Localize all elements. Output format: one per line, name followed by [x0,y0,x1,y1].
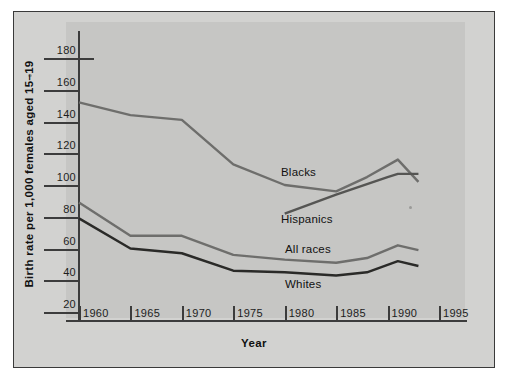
y-axis-tick-rule [44,185,78,187]
chart-figure: 20406080100120140160180 1960196519701975… [0,0,508,380]
y-axis-tick-label: 20 [44,299,78,310]
x-axis-tick-1985 [336,306,338,321]
y-axis-tick-180: 180 [44,45,78,60]
series-label-all-races: All races [285,243,331,255]
x-axis-tick-label: 1985 [340,307,366,319]
y-axis-tick-rule [44,153,78,155]
x-axis-tick-label: 1975 [237,307,263,319]
y-axis-tick-label: 40 [44,267,78,278]
x-axis-tick-label: 1990 [392,307,418,319]
y-axis-tick-label: 160 [44,77,78,88]
y-axis-tick-120: 120 [44,140,78,155]
y-axis-tick-20: 20 [44,299,78,314]
y-axis-tick-label: 140 [44,109,78,120]
x-axis-tick-1990 [388,306,390,321]
y-axis-tick-label: 120 [44,140,78,151]
y-axis-tick-label: 180 [44,45,78,56]
series-label-whites: Whites [285,278,321,290]
y-axis-tick-label: 100 [44,172,78,183]
y-axis-tick-rule [44,249,78,251]
y-axis-tick-60: 60 [44,236,78,251]
y-axis-tick-label: 60 [44,236,78,247]
y-axis-tick-100: 100 [44,172,78,187]
paper-speck [409,206,412,209]
x-axis-title: Year [0,337,508,349]
x-axis-tick-1970 [182,306,184,321]
y-axis-tick-label: 80 [44,204,78,215]
x-axis-tick-1995 [439,306,441,321]
x-axis-tick-label: 1980 [289,307,315,319]
y-axis-tick-rule [44,122,78,124]
x-axis-tick-1965 [130,306,132,321]
y-axis-title: Birth rate per 1,000 females aged 15–19 [23,59,35,289]
x-axis-tick-label: 1960 [83,307,109,319]
y-axis-tick-40: 40 [44,267,78,282]
y-axis-tick-rule [44,312,78,314]
x-axis-tick-1975 [233,306,235,321]
y-axis-line [78,31,80,320]
y-axis-tick-rule [44,58,78,60]
y-axis-tick-160: 160 [44,77,78,92]
x-axis-line [66,320,467,322]
y-axis-tick-rule [44,217,78,219]
x-axis-tick-label: 1965 [134,307,160,319]
x-axis-tick-1980 [285,306,287,321]
y-axis-tick-rule [44,90,78,92]
series-label-hispanics: Hispanics [281,213,333,225]
x-axis-tick-label: 1995 [443,307,469,319]
y-axis-tick-rule [44,280,78,282]
y-axis-tick-80: 80 [44,204,78,219]
x-axis-tick-label: 1970 [186,307,212,319]
series-label-blacks: Blacks [281,166,316,178]
plot-panel [66,22,465,318]
y-axis-tick-140: 140 [44,109,78,124]
x-axis-tick-1960 [79,306,81,321]
y-axis-tick-rule-inner [80,58,94,60]
